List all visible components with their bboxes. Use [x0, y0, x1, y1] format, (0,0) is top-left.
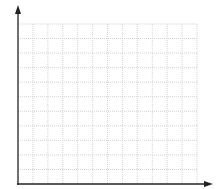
grid-lines	[18, 24, 197, 184]
x-axis-arrow-icon	[204, 181, 213, 187]
y-axis-arrow-icon	[15, 5, 21, 14]
y-axis	[15, 5, 21, 185]
empty-chart	[0, 0, 218, 189]
x-axis	[17, 181, 213, 187]
